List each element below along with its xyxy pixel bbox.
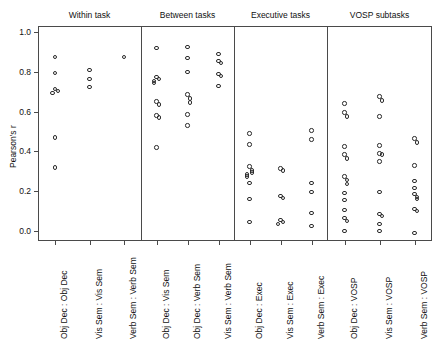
data-point xyxy=(245,174,249,178)
data-point xyxy=(53,165,57,169)
data-point xyxy=(377,114,381,118)
x-axis-tick-mark xyxy=(188,241,189,245)
data-point xyxy=(87,68,91,72)
x-axis-tick-mark xyxy=(124,241,125,245)
data-point xyxy=(377,222,381,226)
panel-divider-3 xyxy=(327,26,328,241)
data-point xyxy=(185,123,189,127)
x-axis-tick-label: Verb Sem : VOSP xyxy=(419,271,429,339)
data-point xyxy=(345,156,349,160)
x-axis-tick-label: Vis Sem : Vis Sem xyxy=(94,269,104,339)
data-point xyxy=(185,70,189,74)
x-axis-tick-label: Vis Sem : VOSP xyxy=(384,277,394,339)
y-axis-tick-label: 0.8 xyxy=(2,68,31,77)
data-point xyxy=(342,229,346,233)
x-axis-tick-label: Obj Dec : Vis Sem xyxy=(161,270,171,339)
data-point xyxy=(377,229,381,233)
panel-strip-executive-tasks: Executive tasks xyxy=(234,8,327,22)
x-axis-tick-label: Verb Sem : Exec xyxy=(316,276,326,339)
data-point xyxy=(53,135,57,139)
data-point xyxy=(154,46,158,50)
data-point xyxy=(412,231,416,235)
x-axis-tick-mark xyxy=(90,241,91,245)
x-axis-tick-mark xyxy=(380,241,381,245)
x-axis-tick-mark xyxy=(281,241,282,245)
x-axis-tick-label: Vis Sem : Verb Sem xyxy=(223,263,233,339)
data-point xyxy=(380,152,384,156)
data-point xyxy=(157,102,161,106)
y-axis-tick-label: 0.4 xyxy=(2,147,31,156)
data-point xyxy=(216,52,220,56)
data-point xyxy=(152,81,156,85)
data-point xyxy=(157,115,161,119)
data-point xyxy=(250,170,254,174)
data-point xyxy=(309,224,313,228)
x-axis-tick-label: Verb Sem : Verb Sem xyxy=(128,257,138,339)
data-point xyxy=(377,159,381,163)
x-axis-tick-label: Obj Dec : VOSP xyxy=(349,278,359,339)
data-point xyxy=(216,84,220,88)
figure-root: Within task Between tasks Executive task… xyxy=(0,0,439,351)
data-point xyxy=(56,89,60,93)
panel-strip-row: Within task Between tasks Executive task… xyxy=(0,0,439,26)
data-point xyxy=(342,144,346,148)
x-axis-tick-label: Obj Dec : Verb Sem xyxy=(192,264,202,339)
y-axis-tick-label: 0.0 xyxy=(2,227,31,236)
data-point xyxy=(87,77,91,81)
data-point xyxy=(377,143,381,147)
y-axis-tick-label: 0.2 xyxy=(2,187,31,196)
panel-divider-1 xyxy=(141,26,142,241)
x-axis-tick-label: Vis Sem : Exec xyxy=(285,282,295,339)
data-point xyxy=(87,85,91,89)
data-point xyxy=(342,208,346,212)
data-point xyxy=(185,112,189,116)
data-point xyxy=(50,91,54,95)
data-point xyxy=(247,142,251,146)
data-point xyxy=(185,45,189,49)
data-point xyxy=(309,128,313,132)
panel-strip-within-task: Within task xyxy=(38,8,141,22)
y-axis-tick-label: 1.0 xyxy=(2,28,31,37)
data-point xyxy=(247,131,251,135)
x-axis-tick-mark xyxy=(345,241,346,245)
panel-strip-vosp-subtasks: VOSP subtasks xyxy=(327,8,432,22)
x-axis-tick-mark xyxy=(219,241,220,245)
x-axis-tick-mark xyxy=(312,241,313,245)
data-point xyxy=(412,163,416,167)
panel-divider-2 xyxy=(234,26,235,241)
plot-frame xyxy=(38,26,432,241)
data-point xyxy=(309,137,313,141)
data-point xyxy=(247,220,251,224)
data-point xyxy=(345,114,349,118)
data-point xyxy=(342,101,346,105)
panel-strip-between-tasks: Between tasks xyxy=(141,8,234,22)
x-axis-tick-label: Obj Dec : Exec xyxy=(254,282,264,339)
x-axis-tick-mark xyxy=(55,241,56,245)
data-point xyxy=(122,55,126,59)
x-axis-tick-mark xyxy=(250,241,251,245)
x-axis-tick-label: Obj Dec : Obj Dec xyxy=(59,271,69,340)
data-point xyxy=(281,168,285,172)
data-point xyxy=(185,56,189,60)
data-point xyxy=(309,211,313,215)
x-axis-tick-mark xyxy=(415,241,416,245)
x-axis-tick-mark xyxy=(157,241,158,245)
data-point xyxy=(154,145,158,149)
data-point xyxy=(415,140,419,144)
y-axis-tick-label: 0.6 xyxy=(2,108,31,117)
